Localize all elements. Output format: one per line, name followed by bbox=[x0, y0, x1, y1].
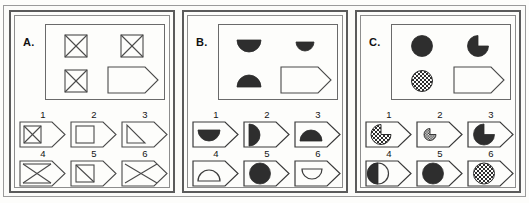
pentagon-with-pacman-checkered-icon bbox=[365, 121, 413, 148]
pentagon-answer-slot-icon bbox=[453, 66, 505, 94]
pentagon-with-half-circle-right-solid-icon bbox=[243, 121, 291, 148]
option-number: 4 bbox=[191, 149, 241, 159]
panel-c-matrix-area: C. bbox=[365, 20, 515, 108]
circle-checkered-icon bbox=[410, 69, 434, 93]
matrix-cell-b-r1c1 bbox=[225, 30, 273, 62]
option-shape bbox=[467, 121, 515, 148]
pentagon-with-square-icon bbox=[70, 121, 118, 148]
option-number: 4 bbox=[18, 149, 68, 159]
panel-c: C. bbox=[355, 10, 521, 193]
panel-row: A. bbox=[9, 10, 521, 193]
panel-c-label: C. bbox=[369, 36, 380, 48]
matrix-cell-b-r2c2-answer-slot bbox=[277, 63, 335, 97]
matrix-cell-a-r2c1 bbox=[52, 65, 100, 97]
option-number: 3 bbox=[466, 110, 516, 120]
option-shape bbox=[19, 160, 67, 187]
pentagon-answer-slot-icon bbox=[107, 66, 159, 94]
option-b-3[interactable]: 3 bbox=[293, 111, 343, 149]
option-number: 3 bbox=[120, 110, 170, 120]
option-number: 2 bbox=[69, 110, 119, 120]
panel-b-matrix-area: B. bbox=[192, 20, 342, 108]
option-a-5[interactable]: 5 bbox=[69, 150, 119, 188]
option-c-6[interactable]: 6 bbox=[466, 150, 516, 188]
square-with-x-icon bbox=[64, 69, 88, 93]
option-shape bbox=[121, 160, 169, 187]
option-shape bbox=[19, 121, 67, 148]
option-shape bbox=[121, 121, 169, 148]
option-b-2[interactable]: 2 bbox=[242, 111, 292, 149]
option-b-6[interactable]: 6 bbox=[293, 150, 343, 188]
option-shape bbox=[294, 121, 342, 148]
circle-solid-icon bbox=[410, 34, 434, 58]
option-number: 3 bbox=[293, 110, 343, 120]
matrix-cell-c-r1c1 bbox=[398, 30, 446, 62]
option-shape bbox=[70, 121, 118, 148]
pentagon-with-circle-checkered-icon bbox=[467, 160, 515, 187]
option-number: 5 bbox=[242, 149, 292, 159]
option-shape bbox=[294, 160, 342, 187]
panel-a-options: 1 2 bbox=[17, 111, 171, 189]
option-number: 2 bbox=[415, 110, 465, 120]
option-a-4[interactable]: 4 bbox=[18, 150, 68, 188]
option-c-4[interactable]: 4 bbox=[364, 150, 414, 188]
pentagon-with-square-diagonal-icon bbox=[70, 160, 118, 187]
pacman-solid-icon bbox=[466, 34, 490, 58]
pentagon-with-pacman-checkered-small-icon bbox=[416, 121, 464, 148]
option-number: 6 bbox=[293, 149, 343, 159]
option-c-1[interactable]: 1 bbox=[364, 111, 414, 149]
option-a-2[interactable]: 2 bbox=[69, 111, 119, 149]
option-shape bbox=[365, 160, 413, 187]
matrix-cell-b-r1c2 bbox=[281, 30, 329, 62]
option-number: 6 bbox=[120, 149, 170, 159]
option-a-1[interactable]: 1 bbox=[18, 111, 68, 149]
option-number: 4 bbox=[364, 149, 414, 159]
panel-b-options: 1 2 bbox=[190, 111, 344, 189]
option-shape bbox=[467, 160, 515, 187]
matrix-cell-c-r2c2-answer-slot bbox=[450, 63, 508, 97]
panel-a-matrix-area: A. bbox=[19, 20, 169, 108]
pentagon-with-semicircle-upper-outline-icon bbox=[192, 160, 240, 187]
panel-b-label: B. bbox=[196, 36, 207, 48]
square-with-x-icon bbox=[120, 34, 144, 58]
pentagon-with-half-circle-left-solid-icon bbox=[365, 160, 413, 187]
panel-c-options: 1 2 bbox=[363, 111, 517, 189]
pentagon-with-bowtie-x-icon bbox=[19, 160, 67, 187]
option-shape bbox=[192, 121, 240, 148]
pentagon-with-circle-solid-icon bbox=[243, 160, 291, 187]
option-shape bbox=[416, 160, 464, 187]
panel-b-matrix-box bbox=[218, 24, 338, 100]
option-b-1[interactable]: 1 bbox=[191, 111, 241, 149]
option-c-2[interactable]: 2 bbox=[415, 111, 465, 149]
pentagon-with-circle-solid-icon bbox=[416, 160, 464, 187]
option-number: 2 bbox=[242, 110, 292, 120]
option-number: 6 bbox=[466, 149, 516, 159]
matrix-cell-c-r2c1 bbox=[398, 65, 446, 97]
panel-a: A. bbox=[9, 10, 175, 193]
option-shape bbox=[192, 160, 240, 187]
option-number: 1 bbox=[364, 110, 414, 120]
pentagon-with-right-triangle-icon bbox=[121, 121, 169, 148]
option-c-3[interactable]: 3 bbox=[466, 111, 516, 149]
pentagon-with-large-x-icon bbox=[121, 160, 169, 187]
matrix-cell-c-r1c2 bbox=[454, 30, 502, 62]
semicircle-lower-solid-icon bbox=[295, 40, 315, 53]
option-b-4[interactable]: 4 bbox=[191, 150, 241, 188]
pentagon-with-semicircle-upper-solid-icon bbox=[294, 121, 342, 148]
option-c-5[interactable]: 5 bbox=[415, 150, 465, 188]
pentagon-answer-slot-icon bbox=[280, 66, 332, 94]
panel-a-label: A. bbox=[23, 36, 34, 48]
matrix-cell-b-r2c1 bbox=[225, 65, 273, 97]
square-with-x-icon bbox=[64, 34, 88, 58]
panel-a-matrix-box bbox=[45, 24, 165, 100]
panel-c-matrix-box bbox=[391, 24, 511, 100]
option-shape bbox=[243, 160, 291, 187]
option-a-3[interactable]: 3 bbox=[120, 111, 170, 149]
matrix-cell-a-r1c1 bbox=[52, 30, 100, 62]
pentagon-with-semicircle-lower-solid-icon bbox=[192, 121, 240, 148]
option-a-6[interactable]: 6 bbox=[120, 150, 170, 188]
semicircle-upper-solid-icon bbox=[236, 73, 262, 89]
matrix-cell-a-r2c2-answer-slot bbox=[104, 63, 162, 97]
option-number: 1 bbox=[191, 110, 241, 120]
semicircle-lower-solid-icon bbox=[236, 38, 262, 54]
option-b-5[interactable]: 5 bbox=[242, 150, 292, 188]
